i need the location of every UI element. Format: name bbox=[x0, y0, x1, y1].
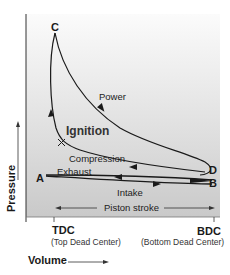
pressure-arrow-icon bbox=[16, 121, 20, 127]
power-label: Power bbox=[99, 92, 126, 102]
piston-stroke-left-arrow bbox=[55, 206, 61, 210]
exhaust-arrow bbox=[114, 174, 122, 180]
point-b-label: B bbox=[209, 178, 217, 189]
piston-stroke-label: Piston stroke bbox=[104, 203, 159, 213]
bdc-full-label: (Bottom Dead Center) bbox=[141, 238, 224, 247]
tdc-label: TDC bbox=[52, 225, 75, 236]
point-c-label: C bbox=[51, 22, 59, 33]
tdc-full-label: (Top Dead Center) bbox=[51, 238, 121, 247]
volume-arrow-icon bbox=[103, 260, 109, 264]
intake-line bbox=[46, 176, 212, 184]
x-axis-label: Volume bbox=[28, 255, 67, 266]
pv-diagram-curves bbox=[0, 0, 230, 275]
compression-arrow bbox=[129, 164, 137, 170]
y-axis-label: Pressure bbox=[5, 165, 17, 212]
ignition-label: Ignition bbox=[66, 125, 109, 137]
point-a-label: A bbox=[36, 173, 44, 184]
point-d-label: D bbox=[209, 165, 217, 176]
exhaust-label: Exhaust bbox=[57, 167, 91, 177]
compression-curve bbox=[51, 33, 205, 172]
intake-label: Intake bbox=[117, 188, 143, 198]
piston-stroke-right-arrow bbox=[209, 206, 215, 210]
compression-label: Compression bbox=[69, 154, 125, 164]
bdc-label: BDC bbox=[197, 226, 221, 237]
